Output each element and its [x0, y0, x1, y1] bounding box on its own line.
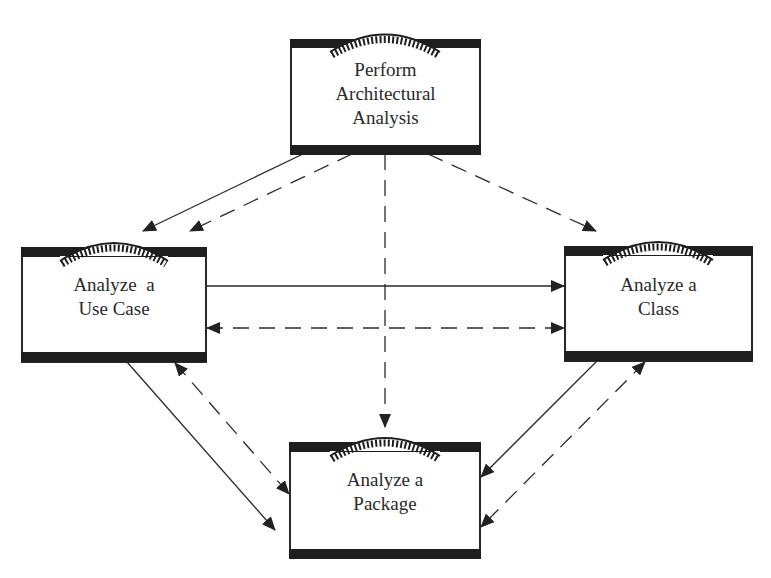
edge-perform-to-usecase-dashed [190, 154, 352, 231]
node-label-analyze-class: Analyze a Class [565, 273, 752, 321]
label-line: Use Case [22, 297, 206, 321]
label-line: Perform [291, 58, 480, 82]
node-label-analyze-package: Analyze a Package [290, 468, 480, 516]
label-line: Analyze a [22, 273, 206, 297]
label-line: Package [290, 492, 480, 516]
edge-usecase-package-dashed-bidirectional [175, 363, 289, 494]
node-bottom-bar [21, 352, 207, 362]
label-line: Analysis [291, 106, 480, 130]
node-bottom-bar [564, 351, 753, 361]
node-bottom-bar [289, 549, 481, 559]
node-label-perform-architectural-analysis: Perform Architectural Analysis [291, 58, 480, 130]
edge-class-package-dashed-bidirectional [481, 362, 645, 527]
edge-usecase-to-package-solid [127, 362, 275, 530]
edge-perform-to-usecase-solid [143, 154, 303, 231]
label-line: Architectural [291, 82, 480, 106]
node-label-analyze-use-case: Analyze a Use Case [22, 273, 206, 321]
label-line: Class [565, 297, 752, 321]
node-bottom-bar [290, 145, 481, 155]
edge-class-to-package-solid [481, 361, 597, 477]
edge-perform-to-class-dashed [428, 154, 596, 231]
label-line: Analyze a [565, 273, 752, 297]
label-line: Analyze a [290, 468, 480, 492]
